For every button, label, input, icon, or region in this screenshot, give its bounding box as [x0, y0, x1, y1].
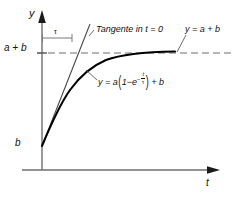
y-tick-label-b: b — [15, 138, 21, 148]
curve-equation-exponent-numerator: t — [141, 72, 145, 78]
curve-equation-exponent-fraction: t τ — [141, 72, 145, 85]
curve-equation-paren-open: ( — [118, 74, 121, 91]
tangent-label-leader — [89, 30, 94, 36]
curve-equation-leader — [86, 70, 97, 80]
y-axis-arrowhead — [38, 10, 46, 23]
asymptote-label-leader — [177, 35, 186, 52]
curve-equation-suffix: + b — [151, 78, 164, 87]
curve-equation-exponent-denominator: τ — [141, 80, 145, 86]
curve-equation-inner-left: 1− — [122, 78, 132, 87]
t-axis-label: t — [206, 178, 209, 188]
exponential-curve — [42, 52, 175, 147]
tau-annotation-label: τ — [54, 28, 57, 35]
tangent-annotation-label: Tangente in t = 0 — [96, 25, 163, 34]
curve-equation-prefix: y = a — [98, 78, 118, 87]
y-tick-label-a-plus-b: a + b — [4, 43, 27, 53]
curve-equation-label: y = a ( 1− e − t τ ) + b — [98, 76, 164, 89]
y-axis-label: y — [29, 8, 35, 19]
asymptote-annotation-label: y = a + b — [185, 25, 220, 34]
exponential-response-figure: y t a + b b τ Tangente in t = 0 y = a + … — [0, 0, 244, 198]
t-axis-arrowhead — [207, 166, 220, 174]
curve-equation-exponent-sign: − — [137, 76, 141, 82]
curve-equation-paren-close: ) — [146, 74, 149, 91]
